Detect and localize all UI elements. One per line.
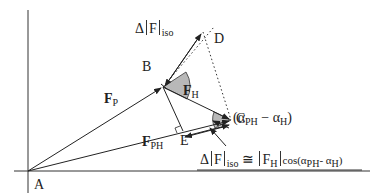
formula-pointer [210, 128, 226, 146]
point-label-b: B [142, 60, 151, 74]
point-label-a: A [34, 178, 44, 192]
vector-label-fp: FP [104, 92, 118, 108]
point-label-e: E [180, 134, 189, 148]
vector-fp [28, 88, 161, 171]
angle-label: (αPH − αH) [233, 111, 292, 127]
vector-label-fph: FPH [142, 135, 163, 151]
delta-f-iso-label: ΔFiso [135, 20, 173, 38]
vector-fph [28, 121, 229, 171]
formula: ΔFiso ≅ FHcos(αPH- αH) [200, 151, 343, 169]
right-angle-e [175, 126, 180, 133]
point-label-d: D [214, 32, 224, 46]
vector-label-fh: FH [183, 84, 199, 100]
delta-arrow-bottom-back [185, 126, 227, 137]
